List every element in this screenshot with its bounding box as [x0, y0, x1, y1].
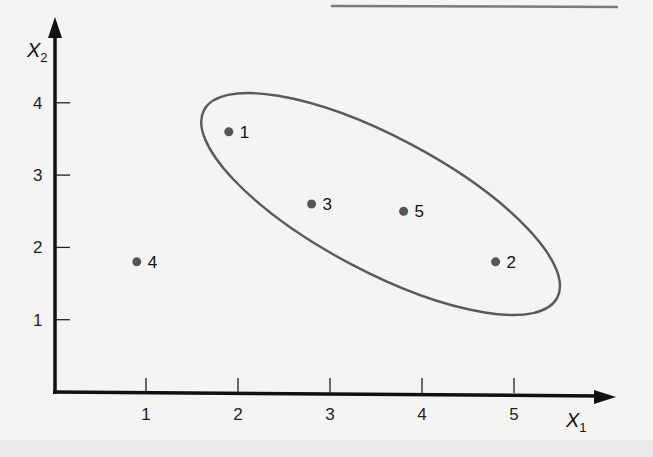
x-tick-label: 5 [509, 405, 518, 424]
y-tick-label: 2 [33, 238, 42, 257]
x-tick-label: 3 [325, 405, 334, 424]
point-label: 2 [507, 253, 516, 272]
x-tick-label: 1 [141, 405, 150, 424]
y-tick-label: 1 [33, 311, 42, 330]
point-label: 3 [323, 195, 332, 214]
point-marker [132, 257, 141, 266]
point-marker [224, 127, 233, 136]
point-label: 1 [240, 123, 249, 142]
data-point-1: 1 [224, 123, 249, 142]
y-ticks: 1234 [33, 94, 70, 330]
data-point-2: 2 [491, 253, 516, 272]
data-point-5: 5 [399, 202, 424, 221]
y-axis-label: X2 [26, 39, 48, 65]
y-tick-label: 4 [33, 94, 42, 113]
y-axis-arrow-icon [48, 17, 62, 38]
top-rule [331, 6, 618, 7]
x-ticks: 12345 [141, 378, 518, 424]
scatter-chart: 1234 12345 X2 X1 12345 [0, 0, 653, 457]
x-tick-label: 4 [417, 405, 426, 424]
x-axis-label: X1 [565, 409, 587, 435]
x-axis [53, 390, 616, 404]
point-marker [491, 257, 500, 266]
point-marker [307, 200, 316, 209]
point-label: 5 [415, 202, 424, 221]
point-marker [399, 207, 408, 216]
data-point-4: 4 [132, 253, 157, 272]
cluster-ellipse [173, 51, 589, 357]
point-label: 4 [148, 253, 157, 272]
data-point-3: 3 [307, 195, 332, 214]
x-tick-label: 2 [233, 405, 242, 424]
cluster-ellipse-layer [173, 51, 589, 357]
y-tick-label: 3 [33, 166, 42, 185]
x-axis-arrow-icon [594, 390, 616, 404]
y-axis [48, 17, 62, 394]
